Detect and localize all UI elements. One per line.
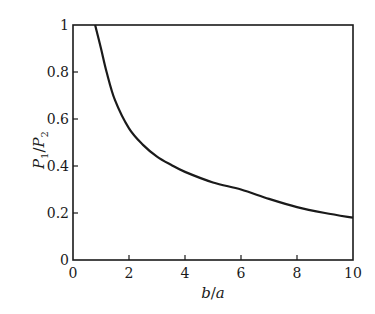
x-tick-label: 4 <box>181 265 190 281</box>
x-tick-label: 2 <box>125 265 134 281</box>
x-axis-ticks: 0246810 <box>69 255 362 281</box>
y-tick-label: 0 <box>60 252 69 268</box>
y-tick-label: 1 <box>60 17 69 33</box>
x-tick-label: 8 <box>293 265 302 281</box>
y-axis-label: P1/P2 <box>30 131 50 170</box>
y-tick-label: 0.8 <box>47 64 69 80</box>
curve-line <box>95 25 353 218</box>
x-tick-label: 10 <box>344 265 362 281</box>
chart: 0246810 00.20.40.60.81 b/a P1/P2 <box>0 0 375 314</box>
x-axis-label: b/a <box>201 284 225 302</box>
x-tick-label: 0 <box>69 265 78 281</box>
y-tick-label: 0.2 <box>47 205 69 221</box>
x-tick-label: 6 <box>237 265 246 281</box>
data-series <box>95 25 353 218</box>
y-tick-label: 0.4 <box>47 158 69 174</box>
plot-frame <box>73 25 353 260</box>
y-tick-label: 0.6 <box>47 111 69 127</box>
